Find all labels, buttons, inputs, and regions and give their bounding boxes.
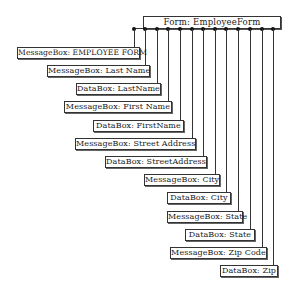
connector-line: [215, 29, 216, 175]
connector-line: [238, 29, 239, 212]
connector-line: [262, 29, 263, 248]
child-node-messagebox-city: MessageBox: City: [144, 174, 220, 186]
form-hierarchy-diagram: Form: EmployeeForm MessageBox: EMPLOYEE …: [0, 0, 295, 291]
connector-line: [134, 29, 135, 48]
connector-line: [226, 29, 227, 193]
connector-line: [273, 29, 274, 266]
connector-line: [168, 29, 169, 102]
child-node-databox-zip: DataBox: Zip: [220, 265, 278, 277]
child-node-messagebox-employee-form: MessageBox: EMPLOYEE FORM: [17, 47, 140, 59]
connector-line: [203, 29, 204, 157]
connector-line: [180, 29, 181, 121]
connector-line: [250, 29, 251, 230]
child-node-databox-firstname: DataBox: FirstName: [93, 120, 184, 132]
child-node-databox-state: DataBox: State: [185, 229, 255, 241]
child-node-databox-streetaddress: DataBox: StreetAddress: [105, 156, 207, 168]
connector-line: [192, 29, 193, 139]
child-node-messagebox-state: MessageBox: State: [167, 211, 243, 223]
child-node-databox-city: DataBox: City: [167, 192, 231, 204]
child-node-messagebox-last-name: MessageBox: Last Name: [47, 65, 150, 77]
connector-line: [157, 29, 158, 84]
child-node-messagebox-zip-code: MessageBox: Zip Code: [170, 247, 267, 259]
child-node-databox-lastname: DataBox: LastName: [76, 83, 161, 95]
child-node-messagebox-first-name: MessageBox: First Name: [64, 101, 172, 113]
child-node-messagebox-street-address: MessageBox: Street Address: [75, 138, 196, 150]
